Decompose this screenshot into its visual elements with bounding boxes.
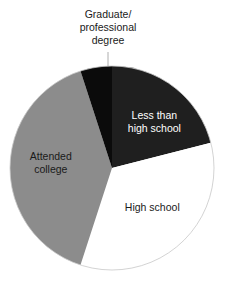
slice-label: Attendedcollege xyxy=(30,150,72,175)
slice-label: Less thanhigh school xyxy=(128,109,181,134)
slice-label: High school xyxy=(125,201,180,213)
slice-label: Graduate/professionaldegree xyxy=(80,8,137,46)
pie-chart: Less thanhigh schoolHigh schoolAttendedc… xyxy=(0,0,228,284)
